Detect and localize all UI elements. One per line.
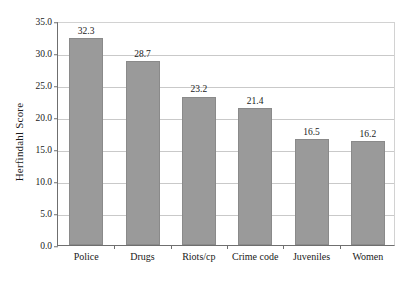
- y-axis-tick: 15.0: [35, 146, 58, 156]
- bar: 21.4: [238, 108, 272, 245]
- bar: 16.2: [351, 141, 385, 245]
- y-axis-tick-mark: [54, 247, 58, 248]
- y-axis-tick-label: 15.0: [35, 146, 54, 156]
- y-axis-tick-label: 0.0: [40, 242, 54, 252]
- y-axis-tick: 25.0: [35, 82, 58, 92]
- bar-value-label: 32.3: [78, 27, 95, 40]
- y-axis-tick: 10.0: [35, 178, 58, 188]
- y-axis-tick: 35.0: [35, 18, 58, 28]
- y-axis-tick-label: 20.0: [35, 114, 54, 124]
- y-axis-tick: 20.0: [35, 114, 58, 124]
- bar-value-label: 23.2: [191, 85, 208, 98]
- y-axis-tick: 30.0: [35, 50, 58, 60]
- y-axis-tick-label: 35.0: [35, 18, 54, 28]
- x-axis-category-label: Crime code: [232, 252, 278, 262]
- bar: 32.3: [69, 38, 103, 245]
- x-axis-category-label: Drugs: [130, 252, 154, 262]
- y-axis-tick-label: 5.0: [40, 210, 54, 220]
- y-axis-tick: 5.0: [40, 210, 58, 220]
- bar-value-label: 21.4: [247, 97, 264, 110]
- x-axis-tick-mark: [171, 245, 172, 249]
- x-axis-category-label: Women: [352, 252, 383, 262]
- x-axis-tick-mark: [340, 245, 341, 249]
- y-axis-tick-mark: [54, 23, 58, 24]
- gridline: [58, 55, 394, 56]
- gridline: [58, 183, 394, 184]
- y-axis-tick-mark: [54, 215, 58, 216]
- gridline: [58, 151, 394, 152]
- x-axis-category-label: Police: [74, 252, 99, 262]
- y-axis-tick-label: 25.0: [35, 82, 54, 92]
- bar-value-label: 16.2: [360, 130, 377, 143]
- x-axis-tick-mark: [283, 245, 284, 249]
- bar: 23.2: [182, 97, 216, 245]
- plot-area: 0.05.010.015.020.025.030.035.0 32.328.72…: [57, 22, 395, 246]
- y-axis-tick-label: 30.0: [35, 50, 54, 60]
- bar: 28.7: [126, 61, 160, 245]
- gridline: [58, 215, 394, 216]
- bar-value-label: 16.5: [303, 128, 320, 141]
- y-axis-tick-mark: [54, 119, 58, 120]
- x-axis-category-label: Juveniles: [293, 252, 330, 262]
- y-axis-tick-label: 10.0: [35, 178, 54, 188]
- x-axis-tick-mark: [114, 245, 115, 249]
- y-axis-title-label: Herfindahl Score: [13, 103, 25, 182]
- bar: 16.5: [295, 139, 329, 245]
- y-axis-tick-mark: [54, 183, 58, 184]
- y-axis-tick-mark: [54, 55, 58, 56]
- x-axis-tick-mark: [227, 245, 228, 249]
- y-axis-tick: 0.0: [40, 242, 58, 252]
- bar-value-label: 28.7: [134, 50, 151, 63]
- y-axis-tick-mark: [54, 87, 58, 88]
- gridline: [58, 87, 394, 88]
- gridline: [58, 119, 394, 120]
- y-axis-tick-mark: [54, 151, 58, 152]
- bar-chart: Herfindahl Score 0.05.010.015.020.025.03…: [0, 0, 415, 284]
- x-axis-category-label: Riots/cp: [182, 252, 215, 262]
